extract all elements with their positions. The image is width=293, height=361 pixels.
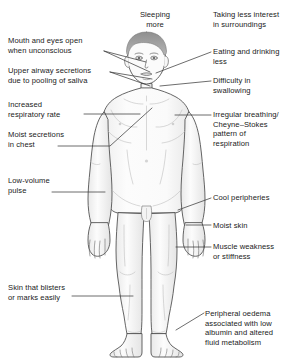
leader-difficulty-in-swallowing [160, 81, 211, 86]
label-mouth-and-eyes-open: Mouth and eyes open when unconscious [8, 36, 108, 55]
label-peripheral-oedema: Peripheral oedema associated with low al… [205, 309, 293, 347]
clinical-body-diagram: Sleeping more Taking less interest in su… [0, 0, 293, 361]
label-skin-that-blisters: Skin that blisters or marks easily [8, 283, 93, 302]
label-moist-secretions-in-chest: Moist secretions in chest [8, 130, 88, 149]
label-moist-skin: Moist skin [213, 221, 293, 231]
leader-cool-peripheries [178, 198, 211, 210]
label-low-volume-pulse: Low-volume pulse [8, 176, 88, 195]
label-sleeping-more: Sleeping more [120, 10, 190, 29]
label-taking-less-interest: Taking less interest in surroundings [213, 10, 293, 29]
label-irregular-breathing: Irregular breathing/ Cheyne–Stokes patte… [213, 110, 293, 148]
leader-upper-airway-secretions [110, 72, 152, 79]
label-eating-and-drinking-less: Eating and drinking less [213, 47, 293, 66]
label-cool-peripheries: Cool peripheries [213, 193, 293, 203]
leader-peripheral-oedema [176, 313, 204, 330]
label-increased-respiratory-rate: Increased respiratory rate [8, 100, 88, 119]
leader-eating-and-drinking-less [156, 52, 211, 73]
label-difficulty-in-swallowing: Difficulty in swallowing [213, 76, 293, 95]
label-muscle-weakness: Muscle weakness or stiffness [213, 242, 293, 261]
leader-upper-airway-secretions-2 [110, 72, 150, 86]
label-upper-airway-secretions: Upper airway secretions due to pooling o… [8, 66, 113, 85]
